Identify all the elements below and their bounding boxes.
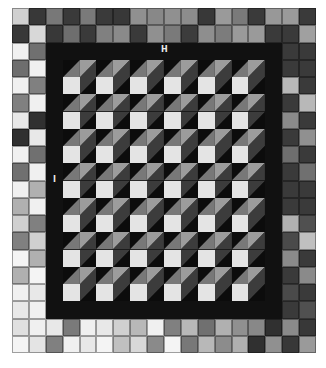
cube-piece <box>248 112 265 129</box>
cube-piece <box>63 215 80 232</box>
cube-piece <box>198 60 215 77</box>
cube-piece <box>80 267 97 284</box>
cube-piece <box>164 146 181 163</box>
border-square <box>265 25 282 42</box>
cube-piece <box>164 215 181 232</box>
border-square <box>299 181 316 198</box>
inner-border-square <box>46 284 63 301</box>
cube-piece <box>164 250 181 267</box>
cube-piece <box>113 146 130 163</box>
cube-piece <box>232 267 249 284</box>
cube-piece <box>63 60 80 77</box>
cube-piece <box>96 198 113 215</box>
cube-piece <box>80 181 97 198</box>
cube-piece <box>232 129 249 146</box>
border-square <box>63 8 80 25</box>
cube-piece <box>164 129 181 146</box>
border-square <box>80 336 97 353</box>
cube-piece <box>96 215 113 232</box>
cube-piece <box>113 232 130 249</box>
border-square <box>282 146 299 163</box>
cube-piece <box>215 129 232 146</box>
border-square <box>232 8 249 25</box>
border-square <box>232 319 249 336</box>
cube-piece <box>147 60 164 77</box>
border-square <box>299 301 316 318</box>
border-square <box>299 8 316 25</box>
cube-piece <box>181 250 198 267</box>
inner-border-square <box>113 301 130 318</box>
cube-piece <box>248 250 265 267</box>
cube-piece <box>181 129 198 146</box>
cube-piece <box>113 60 130 77</box>
cube-piece <box>181 198 198 215</box>
border-square <box>113 319 130 336</box>
cube-piece <box>248 146 265 163</box>
cube-piece <box>181 112 198 129</box>
border-square <box>12 267 29 284</box>
border-square <box>29 232 46 249</box>
border-square <box>12 284 29 301</box>
inner-border-square <box>46 129 63 146</box>
border-square <box>282 25 299 42</box>
cube-piece <box>181 284 198 301</box>
border-square <box>29 215 46 232</box>
cube-piece <box>147 77 164 94</box>
border-square <box>282 129 299 146</box>
cube-piece <box>113 198 130 215</box>
inner-border-square <box>232 301 249 318</box>
cube-piece <box>63 112 80 129</box>
inner-border-square <box>265 60 282 77</box>
cube-piece <box>232 60 249 77</box>
cube-piece <box>232 284 249 301</box>
border-square <box>29 319 46 336</box>
border-square <box>299 77 316 94</box>
inner-border-square <box>265 129 282 146</box>
border-square <box>29 267 46 284</box>
cube-piece <box>232 146 249 163</box>
cube-piece <box>80 146 97 163</box>
inner-border-square <box>198 301 215 318</box>
cube-piece <box>96 77 113 94</box>
cube-piece <box>147 163 164 180</box>
border-square <box>299 319 316 336</box>
cube-piece <box>130 267 147 284</box>
border-square <box>29 43 46 60</box>
border-square <box>299 250 316 267</box>
cube-piece <box>198 198 215 215</box>
inner-border-square <box>46 146 63 163</box>
cube-piece <box>80 94 97 111</box>
cube-piece <box>248 181 265 198</box>
border-square <box>29 181 46 198</box>
inner-border-square <box>96 43 113 60</box>
inner-border-square <box>46 43 63 60</box>
inner-border-square <box>265 163 282 180</box>
border-square <box>299 129 316 146</box>
cube-piece <box>215 250 232 267</box>
cube-piece <box>164 232 181 249</box>
border-square <box>12 250 29 267</box>
inner-border-square <box>46 77 63 94</box>
inner-border-square <box>248 43 265 60</box>
inner-border-square <box>130 301 147 318</box>
border-square <box>113 8 130 25</box>
border-square <box>164 336 181 353</box>
cube-piece <box>232 77 249 94</box>
inner-border-square <box>265 94 282 111</box>
border-square <box>12 319 29 336</box>
cube-piece <box>96 250 113 267</box>
cube-piece <box>181 232 198 249</box>
border-square <box>113 336 130 353</box>
border-square <box>12 60 29 77</box>
border-square <box>282 8 299 25</box>
cube-piece <box>113 250 130 267</box>
border-square <box>282 198 299 215</box>
cube-piece <box>96 94 113 111</box>
border-square <box>96 8 113 25</box>
inner-border-square <box>46 232 63 249</box>
cube-piece <box>232 181 249 198</box>
border-square <box>96 319 113 336</box>
border-square <box>12 181 29 198</box>
cube-piece <box>80 250 97 267</box>
border-square <box>299 284 316 301</box>
